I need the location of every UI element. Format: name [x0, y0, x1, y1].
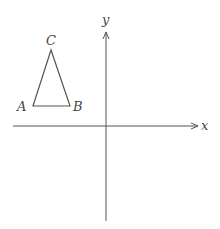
vertex-label-b: B: [72, 99, 83, 114]
vertex-label-a: A: [16, 99, 26, 114]
triangle-abc: [33, 50, 70, 106]
coordinate-plane: x y A B C: [0, 0, 220, 229]
x-axis-label: x: [201, 118, 209, 133]
vertex-label-c: C: [46, 33, 56, 48]
y-axis-label: y: [101, 12, 110, 27]
